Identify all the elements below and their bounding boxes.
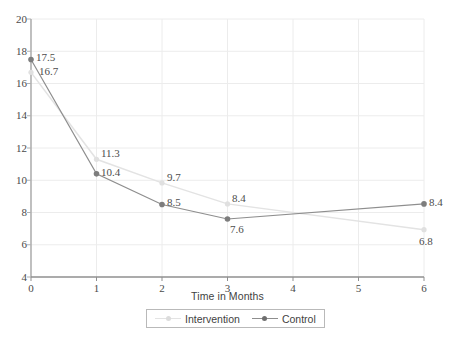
data-label-control-m1: 10.4	[101, 167, 120, 178]
legend-item-intervention[interactable]: Intervention	[155, 310, 240, 327]
legend-swatch-intervention-icon	[155, 314, 181, 323]
legend-item-control[interactable]: Control	[252, 310, 316, 327]
y-tick-14: 14	[3, 110, 27, 121]
data-label-intervention-m0: 16.7	[39, 66, 58, 77]
data-label-intervention-m3: 8.4	[232, 193, 246, 204]
data-label-control-m6: 8.4	[429, 197, 443, 208]
data-label-intervention-m1: 11.3	[101, 148, 120, 159]
x-axis-title: Time in Months	[0, 290, 455, 302]
line-chart: 20 18 16 14 12 10 8 6 4 0 1 2 3 4 5 6 Ti…	[0, 0, 455, 341]
y-tick-12: 12	[3, 143, 27, 154]
data-label-control-m2: 8.5	[167, 197, 181, 208]
legend-label-control: Control	[282, 313, 316, 325]
legend-swatch-control-icon	[252, 314, 278, 323]
data-label-control-m3: 7.6	[230, 224, 244, 235]
data-label-control-m0: 17.5	[36, 52, 55, 63]
y-tick-20: 20	[3, 14, 27, 25]
y-tick-18: 18	[3, 46, 27, 57]
data-label-intervention-m6: 6.8	[419, 236, 433, 247]
y-tick-8: 8	[3, 207, 27, 218]
legend-label-intervention: Intervention	[185, 313, 240, 325]
data-label-intervention-m2: 9.7	[167, 172, 181, 183]
y-tick-16: 16	[3, 78, 27, 89]
chart-legend: Intervention Control	[146, 309, 325, 328]
y-tick-6: 6	[3, 239, 27, 250]
y-tick-4: 4	[3, 272, 27, 283]
y-tick-10: 10	[3, 175, 27, 186]
